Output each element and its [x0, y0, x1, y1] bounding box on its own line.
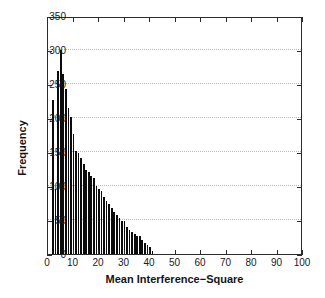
y-tick-label-200: 200 [26, 114, 66, 124]
histogram-bar [103, 197, 105, 254]
histogram-bar [131, 232, 133, 254]
histogram-bar [144, 243, 146, 254]
y-tick-mark-right-200 [297, 119, 302, 120]
histogram-bar [134, 234, 136, 254]
histogram-bar [129, 230, 131, 254]
bar-series [48, 18, 301, 254]
histogram-bar [126, 227, 128, 254]
histogram-bar [90, 176, 92, 254]
histogram-bar [83, 164, 85, 254]
histogram-bar [68, 108, 70, 254]
histogram-bar [141, 240, 143, 254]
histogram-bar [75, 151, 77, 254]
x-axis-title: Mean Interference−Square [47, 273, 302, 285]
y-tick-label-350: 350 [26, 12, 66, 22]
histogram-bar [111, 208, 113, 254]
x-tick-mark-top-30 [124, 17, 125, 22]
histogram-bar [106, 201, 108, 254]
plot-area [47, 17, 302, 255]
histogram-bar [119, 218, 121, 254]
y-tick-mark-right-50 [297, 221, 302, 222]
histogram-bar [147, 245, 149, 254]
x-tick-mark-top-40 [149, 17, 150, 22]
histogram-bar [113, 212, 115, 254]
y-tick-label-100: 100 [26, 182, 66, 192]
y-tick-mark-right-150 [297, 153, 302, 154]
y-tick-label-150: 150 [26, 148, 66, 158]
x-tick-mark-top-100 [302, 17, 303, 22]
x-tick-mark-0 [47, 250, 48, 255]
x-tick-mark-100 [302, 250, 303, 255]
x-tick-mark-40 [149, 250, 150, 255]
histogram-bar [62, 74, 64, 254]
histogram-bar [152, 251, 154, 254]
x-tick-mark-top-60 [200, 17, 201, 22]
histogram-figure: Frequency Mean Interference−Square 05010… [0, 0, 325, 298]
y-tick-mark-right-100 [297, 187, 302, 188]
y-tick-mark-right-0 [297, 255, 302, 256]
histogram-bar [93, 178, 95, 254]
x-tick-mark-20 [98, 250, 99, 255]
histogram-bar [96, 186, 98, 254]
histogram-bar [78, 153, 80, 254]
y-tick-mark-right-250 [297, 85, 302, 86]
histogram-bar [70, 117, 72, 254]
histogram-bar [139, 236, 141, 254]
histogram-bar [98, 189, 100, 254]
histogram-bar [136, 236, 138, 254]
y-tick-label-250: 250 [26, 80, 66, 90]
histogram-bar [73, 134, 75, 254]
x-tick-mark-10 [73, 250, 74, 255]
x-tick-mark-80 [251, 250, 252, 255]
histogram-bar [85, 170, 87, 254]
x-tick-mark-top-20 [98, 17, 99, 22]
x-tick-mark-top-70 [226, 17, 227, 22]
histogram-bar [108, 204, 110, 254]
x-tick-mark-top-0 [47, 17, 48, 22]
histogram-bar [88, 172, 90, 254]
histogram-bar [80, 158, 82, 254]
x-tick-mark-30 [124, 250, 125, 255]
histogram-bar [57, 71, 59, 254]
y-tick-label-50: 50 [26, 216, 66, 226]
x-tick-mark-70 [226, 250, 227, 255]
x-tick-label-100: 100 [287, 258, 317, 268]
x-tick-mark-top-50 [175, 17, 176, 22]
histogram-bar [101, 191, 103, 254]
y-tick-label-300: 300 [26, 46, 66, 56]
x-tick-mark-top-10 [73, 17, 74, 22]
x-tick-mark-top-90 [277, 17, 278, 22]
x-tick-mark-top-80 [251, 17, 252, 22]
x-tick-mark-60 [200, 250, 201, 255]
histogram-bar [121, 221, 123, 254]
histogram-bar [116, 215, 118, 254]
y-tick-mark-right-300 [297, 51, 302, 52]
x-tick-mark-90 [277, 250, 278, 255]
x-tick-mark-50 [175, 250, 176, 255]
